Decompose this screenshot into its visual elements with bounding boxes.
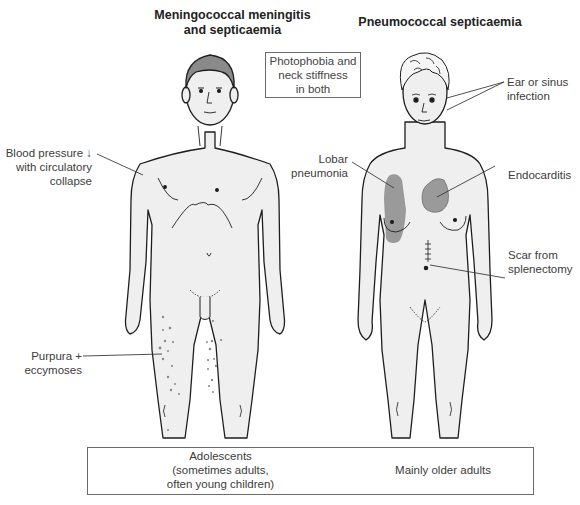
age-groups-box: Adolescents (sometimes adults, often you… <box>87 447 534 495</box>
label-line: (sometimes adults, <box>88 463 353 477</box>
box-line-3: in both <box>266 82 360 96</box>
label-line: splenectomy <box>508 262 580 276</box>
label-line: Endocarditis <box>508 168 580 182</box>
label-line: Adolescents <box>88 449 353 463</box>
label-line: collapse <box>0 174 92 188</box>
label-scar-splenectomy: Scar from splenectomy <box>508 248 580 276</box>
symptoms-both-box: Photophobia and neck stiffness in both <box>265 52 361 98</box>
label-line: infection <box>507 89 580 103</box>
label-ear-sinus: Ear or sinus infection <box>507 75 580 103</box>
label-line: pneumonia <box>280 166 348 180</box>
title-line-1: Meningococcal meningitis <box>140 8 325 23</box>
title-meningococcal: Meningococcal meningitis and septicaemia <box>140 8 325 38</box>
label-line: eccymoses <box>0 363 82 377</box>
label-line: Lobar <box>280 152 348 166</box>
diagram-canvas: Meningococcal meningitis and septicaemia… <box>0 0 580 505</box>
age-group-meningococcal: Adolescents (sometimes adults, often you… <box>88 449 353 491</box>
title-line-2: and septicaemia <box>140 23 325 38</box>
label-endocarditis: Endocarditis <box>508 168 580 182</box>
box-line-2: neck stiffness <box>266 68 360 82</box>
male-figure <box>126 55 285 438</box>
box-line-1: Photophobia and <box>266 54 360 68</box>
female-figure <box>358 53 492 438</box>
label-purpura: Purpura + eccymoses <box>0 349 82 377</box>
title-pneumococcal: Pneumococcal septicaemia <box>355 15 525 30</box>
label-blood-pressure: Blood pressure ↓ with circulatory collap… <box>0 146 92 188</box>
label-line: with circulatory <box>0 160 92 174</box>
label-line: often young children) <box>88 477 353 491</box>
label-line: Ear or sinus <box>507 75 580 89</box>
label-line: Purpura + <box>0 349 82 363</box>
label-line: Blood pressure ↓ <box>0 146 92 160</box>
age-group-pneumococcal: Mainly older adults <box>353 463 533 477</box>
label-lobar-pneumonia: Lobar pneumonia <box>280 152 348 180</box>
label-line: Scar from <box>508 248 580 262</box>
